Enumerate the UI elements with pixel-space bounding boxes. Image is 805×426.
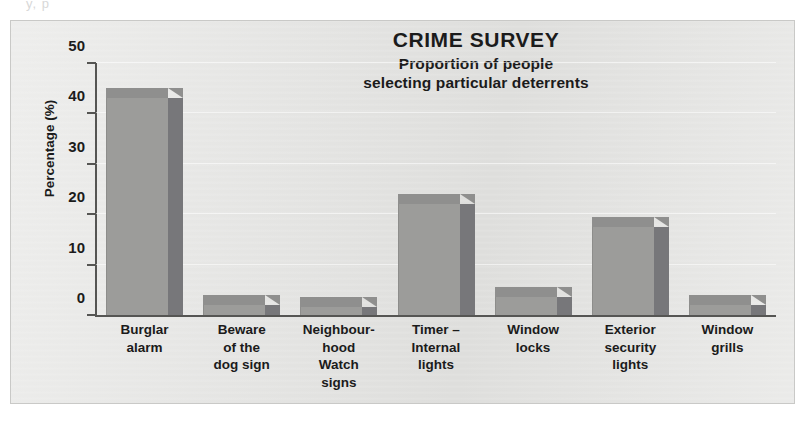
bar-side-face (460, 204, 475, 315)
bar[interactable] (495, 287, 572, 315)
x-axis-category-label-line: Exterior (582, 321, 679, 339)
bar-front-face (398, 204, 461, 315)
bar-side-face (168, 98, 183, 315)
x-axis-category-label-line: Window (485, 321, 582, 339)
x-axis-category-label-line: alarm (96, 339, 193, 357)
bar-front-face (106, 98, 169, 315)
bar-top-face (495, 287, 557, 297)
bar[interactable] (592, 217, 669, 315)
bar-side-face (751, 305, 766, 315)
bar-side-face (557, 297, 572, 315)
bar-front-face (495, 297, 558, 315)
bar-side-face (265, 305, 280, 315)
x-axis-line (95, 315, 776, 317)
bar-side-face (654, 227, 669, 315)
x-axis-category-label-line: Neighbour- (290, 321, 387, 339)
x-axis-category-label: Windowgrills (679, 321, 776, 356)
y-axis-tick-label: 40 (55, 87, 85, 104)
x-axis-category-label-line: locks (485, 339, 582, 357)
bar[interactable] (300, 297, 377, 315)
x-axis-category-label: Burglaralarm (96, 321, 193, 356)
x-axis-category-label-line: security (582, 339, 679, 357)
x-axis-category-labels: BurglaralarmBewareof thedog signNeighbou… (96, 321, 776, 401)
x-axis-category-label: Windowlocks (485, 321, 582, 356)
bar-top-face (592, 217, 654, 227)
bar-side-face (362, 307, 377, 315)
y-axis-tick-labels: 50403020100 (47, 63, 85, 315)
x-axis-category-label-line: grills (679, 339, 776, 357)
x-axis-category-label-line: Timer – (387, 321, 484, 339)
bar[interactable] (398, 194, 475, 315)
x-axis-category-label-line: signs (290, 374, 387, 392)
x-axis-category-label: Neighbour-hoodWatchsigns (290, 321, 387, 391)
y-axis-tick-mark (87, 213, 96, 215)
y-axis-tick-mark (87, 163, 96, 165)
bar-front-face (689, 305, 752, 315)
bar-top-face (106, 88, 168, 98)
x-axis-category-label: Exteriorsecuritylights (582, 321, 679, 374)
y-axis-tick-mark (87, 314, 96, 316)
gridline (96, 163, 776, 164)
x-axis-category-label-line: Window (679, 321, 776, 339)
gridline (96, 62, 776, 63)
y-axis-tick-mark (87, 112, 96, 114)
y-axis-tick-label: 50 (55, 37, 85, 54)
x-axis-category-label: Timer –Internallights (387, 321, 484, 374)
x-axis-category-label-line: lights (387, 356, 484, 374)
chart-panel: CRIME SURVEY Proportion of people select… (10, 20, 795, 404)
bar[interactable] (203, 295, 280, 315)
x-axis-category-label-line: of the (193, 339, 290, 357)
page-bleed-through-text: y, p (26, 0, 426, 14)
bar-front-face (203, 305, 266, 315)
bar[interactable] (689, 295, 766, 315)
bar[interactable] (106, 88, 183, 315)
x-axis-category-label-line: Internal (387, 339, 484, 357)
x-axis-category-label-line: Watch (290, 356, 387, 374)
y-axis-tick-label: 30 (55, 138, 85, 155)
x-axis-category-label-line: lights (582, 356, 679, 374)
bar-top-face (203, 295, 265, 305)
bar-front-face (300, 307, 363, 315)
y-axis-tick-mark (87, 62, 96, 64)
x-axis-category-label: Bewareof thedog sign (193, 321, 290, 374)
gridline (96, 112, 776, 113)
plot-area (96, 63, 776, 315)
x-axis-category-label-line: dog sign (193, 356, 290, 374)
bar-top-face (398, 194, 460, 204)
y-axis-tick-label: 10 (55, 239, 85, 256)
bar-top-face (300, 297, 362, 307)
x-axis-category-label-line: Burglar (96, 321, 193, 339)
y-axis-tick-label: 20 (55, 188, 85, 205)
y-axis-tick-label: 0 (55, 289, 85, 306)
x-axis-category-label-line: Beware (193, 321, 290, 339)
bar-top-face (689, 295, 751, 305)
bar-front-face (592, 227, 655, 315)
x-axis-category-label-line: hood (290, 339, 387, 357)
chart-title: CRIME SURVEY (311, 29, 641, 51)
y-axis-tick-mark (87, 264, 96, 266)
